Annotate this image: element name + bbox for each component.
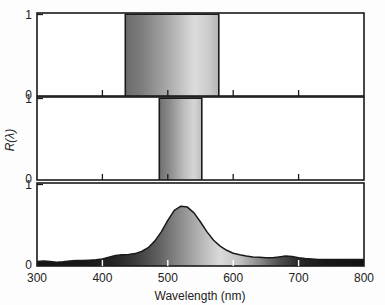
xtick-label-700: 700 <box>289 271 309 285</box>
panel-top-data-area <box>125 14 219 96</box>
xtick-label-800: 800 <box>354 271 374 285</box>
xtick-label-400: 400 <box>92 271 112 285</box>
panel-middle: 1 0 <box>25 92 364 186</box>
panel-middle-ytick-label-1: 1 <box>25 92 32 106</box>
x-axis-label: Wavelength (nm) <box>155 289 246 303</box>
top-band-fill <box>125 14 219 96</box>
y-axis-label: R(λ) <box>3 129 17 152</box>
xtick-label-500: 500 <box>158 271 178 285</box>
panel-top: 1 0 <box>25 8 364 102</box>
panel-middle-data-area <box>159 98 202 180</box>
panel-bottom-ytick-label-0: 0 <box>25 258 32 272</box>
x-axis-tick-labels: 300 400 500 600 700 800 <box>27 271 374 285</box>
xtick-label-300: 300 <box>27 271 47 285</box>
panel-top-ytick-label-1: 1 <box>25 8 32 22</box>
spectra-figure: 1 0 1 0 <box>0 0 385 305</box>
middle-band-fill <box>159 98 202 180</box>
figure-container: 1 0 1 0 <box>0 0 385 305</box>
panel-bottom: 1 0 <box>25 178 364 272</box>
xtick-label-600: 600 <box>223 271 243 285</box>
panel-bottom-ytick-label-1: 1 <box>25 178 32 192</box>
